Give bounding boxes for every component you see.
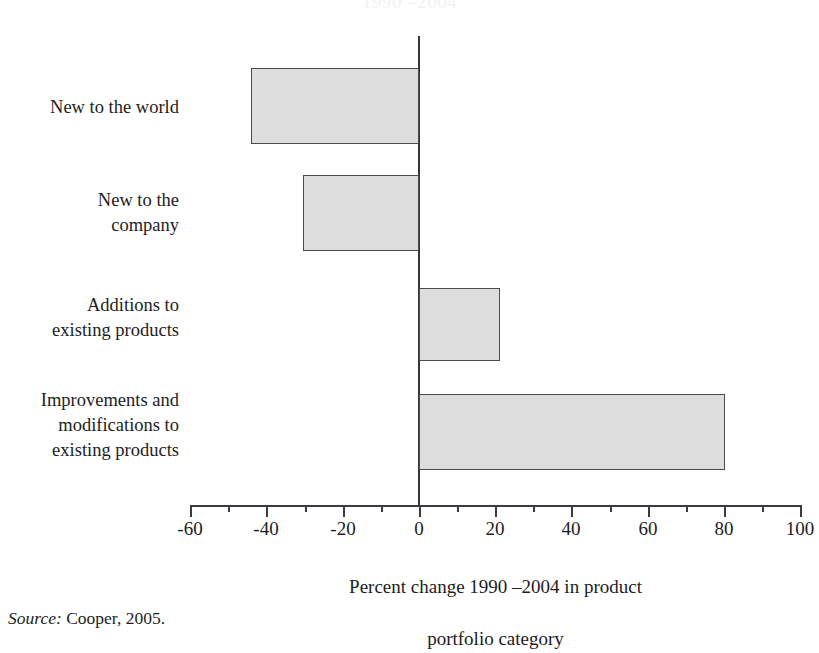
x-tick-label-0: 0: [384, 518, 454, 540]
x-tick-major--60: [190, 505, 192, 517]
x-tick-label-100: 100: [765, 518, 819, 540]
x-tick-label-80: 80: [689, 518, 759, 540]
x-tick-major--40: [266, 505, 268, 517]
x-axis-title: Percent change 1990 –2004 in product por…: [190, 548, 801, 653]
x-tick-label-60: 60: [613, 518, 683, 540]
x-tick-major-60: [648, 505, 650, 517]
x-tick-label--20: -20: [308, 518, 378, 540]
bar-additions-to-existing-products: [419, 288, 500, 361]
x-tick-major-20: [495, 505, 497, 517]
category-label-new-to-the-world: New to the world: [50, 95, 179, 120]
x-tick-major-40: [571, 505, 573, 517]
source-label: Source:: [8, 608, 62, 628]
category-label-new-to-the-company: New to the company: [98, 188, 179, 238]
x-tick-minor-50: [610, 505, 612, 512]
x-axis-title-line-2: portfolio category: [190, 626, 801, 652]
x-tick-minor-90: [762, 505, 764, 512]
x-tick-minor--10: [381, 505, 383, 512]
x-tick-major-0: [419, 505, 421, 517]
x-tick-major-100: [800, 505, 802, 517]
x-tick-label--60: -60: [155, 518, 225, 540]
x-tick-minor--30: [305, 505, 307, 512]
x-tick-minor-10: [457, 505, 459, 512]
x-tick-major--20: [343, 505, 345, 517]
category-label-additions-to-existing-products: Additions to existing products: [52, 293, 179, 343]
x-tick-minor-70: [686, 505, 688, 512]
x-tick-minor--50: [228, 505, 230, 512]
bar-new-to-the-company: [303, 175, 419, 251]
bar-improvements-and-modifications: [419, 394, 725, 470]
x-axis-title-line-1: Percent change 1990 –2004 in product: [190, 574, 801, 600]
x-tick-major-80: [724, 505, 726, 517]
x-tick-label-20: 20: [460, 518, 530, 540]
source-citation: Cooper, 2005.: [62, 608, 165, 628]
category-label-improvements-and-modifications: Improvements and modifications to existi…: [41, 388, 179, 463]
x-tick-minor-30: [533, 505, 535, 512]
x-tick-label--40: -40: [231, 518, 301, 540]
source-note: Source: Cooper, 2005.: [8, 608, 165, 629]
bar-new-to-the-world: [251, 68, 419, 144]
x-tick-label-40: 40: [536, 518, 606, 540]
